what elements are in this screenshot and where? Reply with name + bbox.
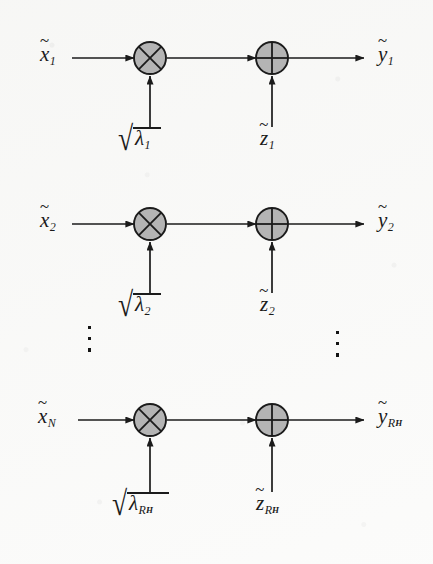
radical-icon: √ bbox=[118, 288, 133, 323]
branch-2-gain-label: √ λ2 bbox=[118, 292, 134, 322]
branch-2-input-label: ~x2 bbox=[40, 210, 56, 233]
branch-1-adder-node bbox=[256, 42, 288, 74]
branch-N-graph bbox=[78, 404, 364, 492]
tilde-accent-icon: ~ bbox=[259, 283, 268, 300]
branch-2-adder-node bbox=[256, 208, 288, 240]
branch-1-noise-label: ~z1 bbox=[260, 128, 275, 151]
radical-icon: √ bbox=[118, 122, 133, 157]
ellipsis-right bbox=[336, 331, 339, 357]
radical-icon: √ bbox=[112, 487, 127, 522]
branch-1-gain-label: √ λ1 bbox=[118, 126, 134, 156]
ellipsis-left bbox=[88, 326, 91, 352]
tilde-accent-icon: ~ bbox=[255, 482, 264, 499]
branch-2-noise-label: ~z2 bbox=[260, 294, 275, 317]
tilde-accent-icon: ~ bbox=[38, 395, 47, 412]
branch-1-input-label: ~x1 bbox=[40, 44, 56, 67]
tilde-accent-icon: ~ bbox=[378, 33, 387, 50]
branch-N-adder-node bbox=[256, 404, 288, 436]
branch-N-output-label: ~yRH bbox=[378, 406, 402, 429]
branch-2-multiplier-node bbox=[134, 208, 166, 240]
figure-canvas: ~x1 ~y1 √ λ1 ~z1 ~x2 ~y2 √ λ2 ~z2 ~xN bbox=[0, 0, 433, 564]
branch-N-multiplier-node bbox=[134, 404, 166, 436]
tilde-accent-icon: ~ bbox=[259, 117, 268, 134]
branch-1-graph bbox=[72, 42, 364, 127]
branch-2-output-label: ~y2 bbox=[378, 210, 394, 233]
tilde-accent-icon: ~ bbox=[40, 33, 49, 50]
branch-N-gain-label: √ λRH bbox=[112, 491, 128, 521]
tilde-accent-icon: ~ bbox=[378, 395, 387, 412]
branch-1-multiplier-node bbox=[134, 42, 166, 74]
branch-1-output-label: ~y1 bbox=[378, 44, 394, 67]
branch-2-graph bbox=[72, 208, 364, 293]
branch-N-noise-label: ~zRH bbox=[256, 493, 279, 516]
signal-flow-graph bbox=[0, 0, 433, 564]
branch-N-input-label: ~xN bbox=[38, 406, 56, 429]
tilde-accent-icon: ~ bbox=[378, 199, 387, 216]
tilde-accent-icon: ~ bbox=[40, 199, 49, 216]
